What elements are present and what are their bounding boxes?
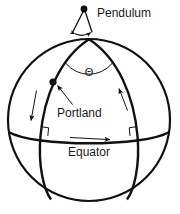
earth-sphere-outline (8, 39, 170, 201)
pendulum-label: Pendulum (97, 6, 151, 20)
diagram-canvas: Pendulum Θ Portland Equator (0, 0, 180, 214)
rotation-arrow-left-limb (31, 91, 37, 121)
pendulum-string-left (73, 11, 84, 33)
pendulum-icon (73, 6, 93, 36)
pendulum-swing-arc (75, 33, 91, 36)
portland-location-dot (49, 78, 56, 85)
pendulum-latitude-diagram: Pendulum Θ Portland Equator (0, 0, 180, 214)
equator-label: Equator (68, 145, 110, 159)
portland-label: Portland (57, 106, 102, 120)
equator-line (9, 132, 170, 143)
portland-leader-arrow (58, 86, 73, 105)
theta-symbol: Θ (85, 66, 94, 78)
pendulum-pivot-dot (81, 6, 88, 13)
rotation-arrow-equator (70, 138, 110, 140)
rotation-arrow-right-meridian (119, 89, 128, 111)
pendulum-string-right (85, 11, 92, 32)
